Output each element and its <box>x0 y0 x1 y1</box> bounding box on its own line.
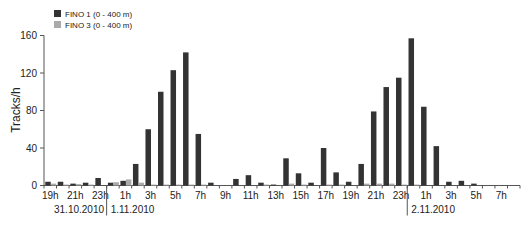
bar-fino1 <box>120 181 126 186</box>
x-tick-label: 9h <box>220 190 231 201</box>
bar-fino3 <box>301 185 307 186</box>
x-tick-label: 19h <box>42 190 59 201</box>
y-tick-label: 120 <box>20 68 37 79</box>
bar-fino1 <box>145 129 151 185</box>
bar-fino3 <box>414 185 420 186</box>
bar-fino3 <box>376 184 382 186</box>
bar-fino1 <box>258 183 264 186</box>
bar-fino1 <box>95 178 101 186</box>
bar-fino1 <box>133 164 139 186</box>
bar-fino1 <box>208 183 214 186</box>
x-tick-label: 3h <box>145 190 156 201</box>
date-group-label: 2.11.2010 <box>411 204 455 215</box>
bar-fino1 <box>358 164 364 186</box>
y-tick-label: 160 <box>20 30 37 41</box>
x-tick-label: 7h <box>195 190 206 201</box>
bar-fino3 <box>402 185 408 186</box>
y-tick-label: 40 <box>26 143 38 154</box>
y-axis-title: Tracks/h <box>9 87 23 133</box>
bar-fino3 <box>63 185 69 186</box>
bar-fino3 <box>326 185 332 186</box>
bar-fino1 <box>271 185 277 186</box>
bar-fino1 <box>108 183 114 186</box>
bar-fino1 <box>383 87 389 185</box>
bar-fino1 <box>70 184 76 186</box>
bar-chart: FINO 1 (0 - 400 m) FINO 3 (0 - 400 m) Tr… <box>0 0 530 227</box>
bar-fino1 <box>333 172 339 185</box>
bar-fino1 <box>471 184 477 186</box>
legend-swatch-fino3 <box>54 21 61 28</box>
bar-fino1 <box>196 134 202 186</box>
bar-fino1 <box>371 111 377 185</box>
x-tick-label: 5h <box>471 190 482 201</box>
bar-fino3 <box>201 185 207 186</box>
bar-fino3 <box>51 184 57 186</box>
legend-label-fino3: FINO 3 (0 - 400 m) <box>65 21 132 30</box>
x-tick-label: 5h <box>170 190 181 201</box>
bar-fino3 <box>164 185 170 186</box>
legend: FINO 1 (0 - 400 m) FINO 3 (0 - 400 m) <box>54 10 132 30</box>
bar-fino1 <box>283 158 289 185</box>
bar-fino1 <box>171 70 177 185</box>
x-tick-label: 3h <box>446 190 457 201</box>
bar-fino1 <box>296 173 302 185</box>
x-tick-label: 17h <box>317 190 334 201</box>
bar-fino3 <box>189 185 195 186</box>
bar-fino1 <box>233 179 239 186</box>
bar-fino3 <box>339 185 345 186</box>
bar-fino3 <box>151 185 157 186</box>
bar-fino1 <box>446 182 452 186</box>
bar-fino3 <box>76 184 82 185</box>
bar-fino3 <box>126 179 132 185</box>
x-tick-label: 1h <box>120 190 131 201</box>
y-tick-label: 0 <box>31 180 37 191</box>
bar-fino1 <box>434 146 440 185</box>
x-tick-label: 7h <box>496 190 507 201</box>
x-tick-label: 1h <box>420 190 431 201</box>
bar-fino3 <box>138 183 144 186</box>
legend-label-fino1: FINO 1 (0 - 400 m) <box>65 10 132 19</box>
legend-swatch-fino1 <box>54 10 61 17</box>
bar-fino1 <box>346 182 352 186</box>
bar-fino3 <box>88 185 94 186</box>
y-axis: 04080120160 <box>20 30 44 191</box>
bars <box>45 38 476 185</box>
bar-fino1 <box>45 182 51 186</box>
bar-fino1 <box>246 175 252 185</box>
x-axis: 19h21h23h1h3h5h7h9h11h13h15h17h19h21h23h… <box>42 186 520 216</box>
bar-fino1 <box>58 182 64 186</box>
bar-fino1 <box>459 181 465 186</box>
bar-fino3 <box>389 184 395 186</box>
bar-fino3 <box>113 182 119 185</box>
y-tick-label: 80 <box>26 105 38 116</box>
x-tick-label: 21h <box>67 190 84 201</box>
bar-fino1 <box>83 183 89 186</box>
bar-fino1 <box>421 107 427 186</box>
bar-fino1 <box>396 78 402 186</box>
bar-fino3 <box>176 185 182 186</box>
bar-fino1 <box>183 52 189 185</box>
date-group-label: 31.10.2010 <box>54 204 104 215</box>
date-group-label: 1.11.2010 <box>111 204 155 215</box>
x-tick-label: 19h <box>343 190 360 201</box>
bar-fino3 <box>364 184 370 186</box>
x-tick-label: 13h <box>267 190 284 201</box>
bar-fino1 <box>409 38 415 185</box>
bar-fino3 <box>289 184 295 186</box>
x-tick-label: 21h <box>368 190 385 201</box>
x-tick-label: 11h <box>243 190 259 201</box>
bar-fino1 <box>321 148 327 186</box>
x-tick-label: 15h <box>292 190 309 201</box>
bar-fino1 <box>158 92 164 186</box>
bar-fino3 <box>264 185 270 186</box>
bar-fino1 <box>308 183 314 186</box>
